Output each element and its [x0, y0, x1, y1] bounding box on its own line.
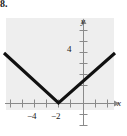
absolute-value-curve [4, 53, 115, 103]
graph-figure: 8. −4 −2 4 x y [0, 0, 127, 136]
x-tick-label-neg4: −4 [27, 112, 37, 121]
plot-area [0, 0, 127, 136]
y-axis-label: y [81, 17, 85, 26]
x-tick-label-neg2: −2 [51, 112, 61, 121]
x-axis-label: x [117, 99, 121, 108]
y-tick-label-4: 4 [67, 45, 72, 54]
